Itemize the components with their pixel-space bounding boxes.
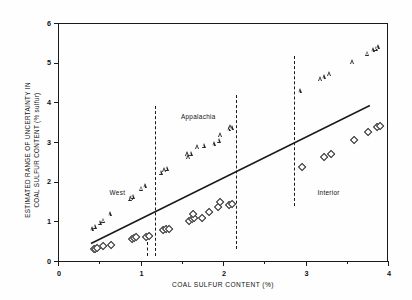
data-point-triangle: [101, 218, 105, 223]
x-tick-label: 1: [138, 269, 146, 278]
data-point-triangle: [108, 211, 112, 216]
region-label-interior: Interior: [317, 189, 339, 196]
y-tick-label: 1: [47, 217, 51, 226]
chart-figure: ESTIMATED RANGE OF UNCERTAINTY IN COAL S…: [0, 0, 412, 300]
y-axis-title-line1: ESTIMATED RANGE OF UNCERTAINTY IN: [23, 82, 32, 218]
data-point-triangle: [217, 138, 221, 143]
data-point-triangle: [131, 194, 135, 199]
region-label-appalachia: Appalachia: [181, 113, 216, 120]
data-point-triangle: [202, 143, 206, 148]
trend-line: [58, 23, 388, 262]
data-point-triangle: [376, 44, 380, 49]
y-tick-label: 4: [47, 98, 51, 107]
data-point-triangle: [322, 74, 326, 79]
data-point-triangle: [93, 224, 97, 229]
y-tick-label: 0: [47, 257, 51, 266]
data-point-triangle: [143, 183, 147, 188]
data-point-triangle: [327, 71, 331, 76]
y-tick-label: 2: [47, 177, 51, 186]
data-point-triangle: [195, 144, 199, 149]
x-tick-label: 4: [385, 269, 393, 278]
data-point-triangle: [165, 166, 169, 171]
data-point-triangle: [212, 141, 216, 146]
plot-area: 0123456 01234 WestAppalachiaInterior: [58, 23, 388, 262]
data-point-triangle: [365, 51, 369, 56]
region-label-west: West: [110, 189, 126, 196]
data-point-triangle: [230, 125, 234, 130]
x-tick-label: 3: [303, 269, 311, 278]
y-axis-title: ESTIMATED RANGE OF UNCERTAINTY IN COAL S…: [12, 0, 52, 300]
x-tick-label: 2: [220, 269, 228, 278]
y-tick-label: 3: [47, 138, 51, 147]
y-tick-label: 5: [47, 58, 51, 67]
data-point-triangle: [298, 88, 302, 93]
y-tick-label: 6: [47, 19, 51, 28]
x-tick-label: 0: [55, 269, 63, 278]
data-point-triangle: [218, 132, 222, 137]
data-point-triangle: [189, 151, 193, 156]
x-axis-title: COAL SULFUR CONTENT (%): [58, 281, 388, 288]
data-point-triangle: [350, 59, 354, 64]
y-axis-title-line2: COAL SULFUR CONTENT (% sulfur): [32, 82, 41, 218]
x-tick: 4: [388, 261, 389, 266]
